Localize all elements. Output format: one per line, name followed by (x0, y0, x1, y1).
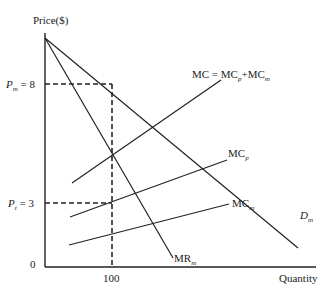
monopoly-diagram: Price($) Quantity 0 100 Pm = 8 Pt = 3 MC… (0, 0, 331, 289)
pm-label: Pm = 8 (5, 78, 36, 93)
mr-label: MRm (174, 252, 196, 267)
x-axis-label: Quantity (279, 272, 318, 284)
mr-curve (45, 38, 173, 258)
mc-total-curve (72, 80, 221, 183)
mc-total-label: MC = MCp+MCm (192, 68, 270, 83)
mcp-label: MCp (228, 147, 249, 162)
pt-label: Pt = 3 (7, 197, 34, 212)
mcm-label: MCm (232, 197, 254, 212)
mcm-curve (69, 204, 229, 245)
x-tick-label-100: 100 (103, 272, 120, 284)
y-axis-label: Price($) (33, 14, 69, 27)
dm-label: Dm (299, 209, 313, 224)
origin-label: 0 (30, 258, 36, 270)
